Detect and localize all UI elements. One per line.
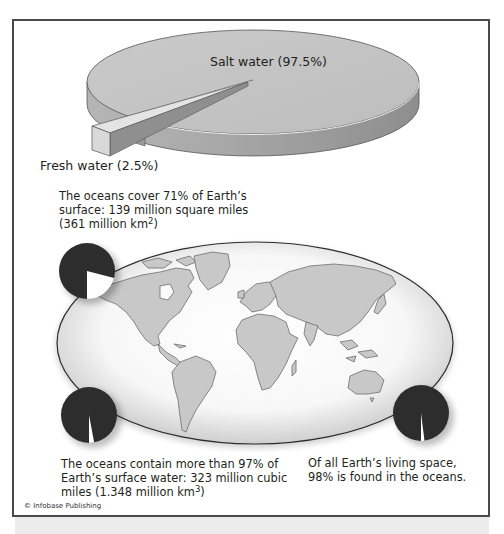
note-line: miles (1.348 million km3) — [61, 485, 287, 499]
note-line: The oceans contain more than 97% of — [61, 457, 287, 471]
note-line: surface: 139 million square miles — [59, 203, 248, 217]
note-line: The oceans cover 71% of Earth’s — [59, 189, 248, 203]
salt-water-label: Salt water (97.5%) — [210, 56, 327, 69]
note-line: (361 million km2) — [59, 217, 248, 231]
pie-ocean-surface — [59, 243, 120, 304]
living-space-note: Of all Earth’s living space, 98% is foun… — [308, 456, 466, 484]
note-line: 98% is found in the oceans. — [308, 470, 466, 484]
note-line: Of all Earth’s living space, — [308, 456, 466, 470]
copyright-credit: © Infobase Publishing — [24, 502, 101, 510]
figure-artwork — [0, 0, 504, 534]
fresh-water-label: Fresh water (2.5%) — [40, 160, 158, 173]
salt-fresh-3d-pie — [87, 30, 419, 156]
note-line: Earth’s surface water: 323 million cubic — [61, 471, 287, 485]
pie-ocean-living-space — [393, 385, 454, 446]
ocean-water-note: The oceans contain more than 97% of Eart… — [61, 457, 287, 499]
ocean-surface-note: The oceans cover 71% of Earth’s surface:… — [59, 189, 248, 231]
